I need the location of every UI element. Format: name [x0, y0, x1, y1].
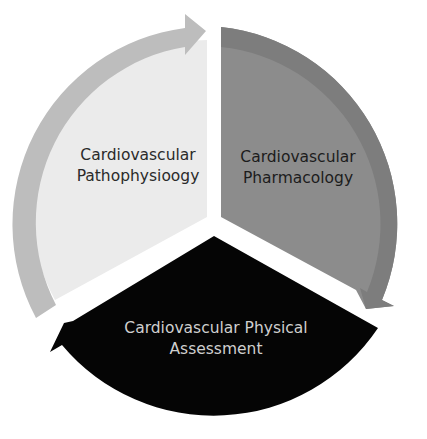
physical-assessment-line2: Assessment — [170, 340, 263, 358]
pathophysiology-line2: Pathophysioogy — [77, 167, 200, 185]
pathophysiology-line1: Cardiovascular — [80, 146, 196, 164]
pharmacology-line2: Pharmacology — [243, 169, 353, 187]
physical-assessment-line1: Cardiovascular Physical — [124, 319, 307, 337]
cycle-diagram: Cardiovascular Pathophysioogy Cardiovasc… — [0, 0, 427, 439]
pharmacology-line1: Cardiovascular — [240, 148, 356, 166]
